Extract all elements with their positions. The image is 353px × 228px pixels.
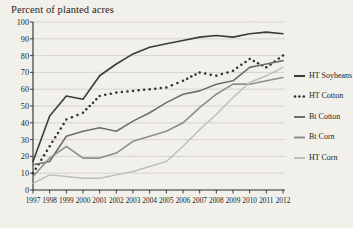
data-dot bbox=[282, 54, 285, 57]
x-tick-label: 2000 bbox=[76, 196, 91, 205]
data-dot bbox=[215, 75, 218, 78]
data-dot bbox=[186, 77, 189, 80]
data-dot bbox=[46, 150, 49, 153]
data-dot bbox=[76, 114, 79, 117]
data-dot bbox=[92, 101, 95, 104]
y-tick-label: 80 bbox=[21, 52, 29, 61]
data-dot bbox=[182, 80, 185, 83]
x-tick-label: 2006 bbox=[176, 196, 191, 205]
x-tick-label: 2004 bbox=[142, 196, 157, 205]
data-dot bbox=[104, 94, 107, 97]
data-dot bbox=[257, 62, 260, 65]
data-dot bbox=[60, 127, 63, 130]
series-ht-soybeans bbox=[33, 32, 283, 161]
data-dot bbox=[165, 86, 168, 89]
data-dot bbox=[198, 71, 201, 74]
data-dot bbox=[48, 145, 51, 148]
data-dot bbox=[110, 92, 113, 95]
x-tick-label: 2003 bbox=[126, 196, 141, 205]
data-dot bbox=[137, 89, 140, 92]
data-dot bbox=[35, 167, 38, 170]
x-tick-label: 1997 bbox=[26, 196, 41, 205]
data-series-group bbox=[32, 32, 285, 183]
data-dot bbox=[71, 116, 74, 119]
y-tick-label: 30 bbox=[21, 136, 29, 145]
data-dot bbox=[65, 118, 68, 121]
legend-swatch-dotted bbox=[294, 95, 297, 98]
y-tick-label: 60 bbox=[21, 85, 29, 94]
x-tick-label: 2007 bbox=[192, 196, 207, 205]
legend-item-bt-cotton[interactable]: Bt Cotton bbox=[294, 112, 340, 121]
data-dot bbox=[32, 172, 35, 175]
y-tick-label: 10 bbox=[21, 169, 29, 178]
legend-item-ht-cotton[interactable]: HT Cotton bbox=[294, 91, 344, 100]
series-bt-corn bbox=[33, 77, 283, 176]
legend-item-ht-corn[interactable]: HT Corn bbox=[294, 153, 338, 162]
y-axis-tick-labels: 0102030405060708090100 bbox=[17, 18, 29, 195]
chart-legend: HT SoybeansHT CottonBt CottonBt CornHT C… bbox=[294, 71, 352, 162]
data-dot bbox=[62, 123, 65, 126]
data-dot bbox=[236, 67, 239, 70]
data-dot bbox=[171, 84, 174, 87]
y-tick-label: 90 bbox=[21, 35, 29, 44]
x-tick-label: 2001 bbox=[92, 196, 107, 205]
data-dot bbox=[121, 91, 124, 94]
x-tick-label: 2002 bbox=[109, 196, 124, 205]
y-tick-label: 0 bbox=[25, 186, 29, 195]
legend-item-ht-soybeans[interactable]: HT Soybeans bbox=[294, 71, 352, 80]
x-axis-tick-labels: 1997199819992000200120022003200420052006… bbox=[26, 196, 291, 205]
y-tick-label: 100 bbox=[17, 18, 29, 27]
legend-swatch-dotted bbox=[298, 95, 301, 98]
data-dot bbox=[240, 64, 243, 67]
x-tick-label: 2012 bbox=[276, 196, 291, 205]
data-dot bbox=[148, 88, 151, 91]
data-dot bbox=[51, 141, 54, 144]
data-dot bbox=[95, 98, 98, 101]
y-tick-label: 20 bbox=[21, 152, 29, 161]
legend-label: Bt Corn bbox=[309, 132, 335, 141]
data-dot bbox=[54, 136, 57, 139]
data-dot bbox=[194, 73, 197, 76]
data-dot bbox=[176, 82, 179, 85]
data-dot bbox=[278, 57, 281, 60]
x-tick-label: 2008 bbox=[209, 196, 224, 205]
data-dot bbox=[40, 159, 43, 162]
y-tick-label: 40 bbox=[21, 119, 29, 128]
legend-item-bt-corn[interactable]: Bt Corn bbox=[294, 132, 335, 141]
legend-label: HT Cotton bbox=[309, 91, 343, 100]
data-dot bbox=[253, 60, 256, 63]
data-dot bbox=[98, 95, 101, 98]
data-dot bbox=[43, 154, 46, 157]
x-tick-label: 1999 bbox=[59, 196, 74, 205]
data-dot bbox=[115, 91, 118, 94]
data-dot bbox=[248, 58, 251, 61]
data-dot bbox=[132, 90, 135, 93]
y-tick-label: 70 bbox=[21, 68, 29, 77]
line-chart-plot: 0102030405060708090100 19971998199920002… bbox=[0, 0, 353, 228]
data-dot bbox=[190, 75, 193, 78]
x-tick-label: 1998 bbox=[42, 196, 57, 205]
x-tick-label: 2009 bbox=[226, 196, 241, 205]
data-dot bbox=[204, 72, 207, 75]
legend-label: Bt Cotton bbox=[309, 112, 340, 121]
data-dot bbox=[154, 87, 157, 90]
x-tick-label: 2010 bbox=[242, 196, 257, 205]
data-dot bbox=[57, 132, 60, 135]
data-dot bbox=[85, 108, 88, 111]
data-dot bbox=[82, 111, 85, 114]
x-tick-label: 2011 bbox=[259, 196, 274, 205]
data-dot bbox=[160, 87, 163, 90]
legend-label: HT Corn bbox=[309, 153, 338, 162]
data-dot bbox=[265, 66, 268, 69]
data-dot bbox=[221, 73, 224, 76]
x-tick-label: 2005 bbox=[159, 196, 174, 205]
legend-label: HT Soybeans bbox=[309, 71, 352, 80]
data-dot bbox=[226, 71, 229, 74]
data-dot bbox=[232, 69, 235, 72]
legend-swatch-dotted bbox=[303, 95, 306, 98]
data-dot bbox=[143, 89, 146, 92]
data-dot bbox=[244, 61, 247, 64]
data-dot bbox=[88, 105, 91, 108]
data-dot bbox=[210, 73, 213, 76]
data-dot bbox=[126, 90, 129, 93]
